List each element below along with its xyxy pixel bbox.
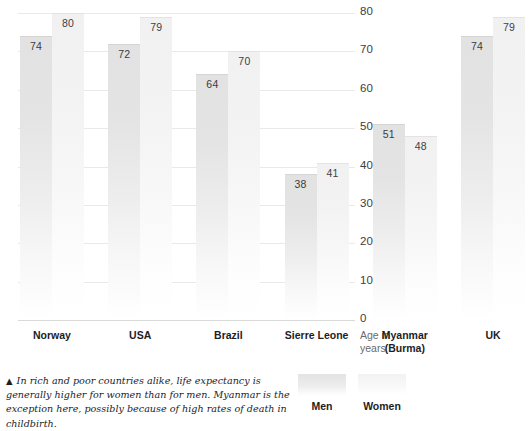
y-axis-tick-20: 20 xyxy=(360,235,408,247)
bar-cap xyxy=(317,163,349,164)
bar-fill xyxy=(405,136,437,320)
bar-cap xyxy=(52,13,84,14)
x-axis-label-line1: Norway xyxy=(7,329,97,342)
x-axis-label-line1: UK xyxy=(448,329,529,342)
x-axis-label: UK xyxy=(448,329,529,342)
legend-label-men: Men xyxy=(298,400,346,412)
bar-group: 3841 xyxy=(285,13,349,320)
bar-group: 7279 xyxy=(108,13,172,320)
legend-item-men: Men xyxy=(298,374,346,412)
bar-fill xyxy=(196,74,228,320)
y-axis-tick-80: 80 xyxy=(360,5,408,17)
bar-fill xyxy=(108,44,140,320)
x-axis-label: Norway xyxy=(7,329,97,342)
x-axis-label: Sierre Leone xyxy=(272,329,362,342)
x-axis-label: Brazil xyxy=(183,329,273,342)
x-axis-label-line1: USA xyxy=(95,329,185,342)
bar-fill xyxy=(317,163,349,320)
bar-value-label: 48 xyxy=(405,140,437,152)
bar-cap xyxy=(108,44,140,45)
bar-value-label: 79 xyxy=(493,21,525,33)
caption-text: In rich and poor countries alike, life e… xyxy=(6,375,290,429)
bar-men[interactable]: 72 xyxy=(108,44,140,320)
y-axis-tick-0: 0 xyxy=(360,312,408,324)
bar-women[interactable]: 48 xyxy=(405,136,437,320)
bar-fill xyxy=(373,124,405,320)
plot-area: 748072796470384151487479 xyxy=(18,13,355,320)
bar-fill xyxy=(20,36,52,320)
x-axis-label-line2: (Burma) xyxy=(360,342,450,355)
bar-cap xyxy=(285,174,317,175)
bar-value-label: 74 xyxy=(20,40,52,52)
bar-cap xyxy=(140,17,172,18)
bar-women[interactable]: 79 xyxy=(140,17,172,320)
x-axis-label-line1: Sierre Leone xyxy=(272,329,362,342)
bar-women[interactable]: 80 xyxy=(52,13,84,320)
bar-group: 6470 xyxy=(196,13,260,320)
legend-label-women: Women xyxy=(358,400,406,412)
bar-women[interactable]: 79 xyxy=(493,17,525,320)
bar-value-label: 38 xyxy=(285,178,317,190)
y-axis-tick-70: 70 xyxy=(360,43,408,55)
bar-value-label: 64 xyxy=(196,78,228,90)
bar-women[interactable]: 70 xyxy=(228,51,260,320)
bar-fill xyxy=(461,36,493,320)
x-axis-label: Myanmar(Burma) xyxy=(360,329,450,354)
bar-cap xyxy=(228,51,260,52)
y-axis-tick-10: 10 xyxy=(360,274,408,286)
bar-cap xyxy=(493,17,525,18)
chart-caption: ▲ In rich and poor countries alike, life… xyxy=(6,374,292,431)
bar-value-label: 80 xyxy=(52,17,84,29)
y-axis-tick-30: 30 xyxy=(360,197,408,209)
bar-men[interactable]: 64 xyxy=(196,74,228,320)
bar-fill xyxy=(493,17,525,320)
legend-item-women: Women xyxy=(358,374,406,412)
bar-cap xyxy=(405,136,437,137)
bar-cap xyxy=(196,74,228,75)
x-axis-label-line1: Brazil xyxy=(183,329,273,342)
bar-group: 7479 xyxy=(461,13,525,320)
bar-fill xyxy=(228,51,260,320)
bar-value-label: 79 xyxy=(140,21,172,33)
bar-men[interactable]: 51 xyxy=(373,124,405,320)
bar-cap xyxy=(20,36,52,37)
bar-fill xyxy=(140,17,172,320)
x-axis-line xyxy=(18,320,355,321)
bar-fill xyxy=(52,13,84,320)
bar-men[interactable]: 38 xyxy=(285,174,317,320)
bar-value-label: 74 xyxy=(461,40,493,52)
chart-legend: Men Women xyxy=(298,374,410,418)
y-axis-tick-50: 50 xyxy=(360,120,408,132)
x-axis-label: USA xyxy=(95,329,185,342)
legend-swatch-women xyxy=(358,374,406,396)
bar-men[interactable]: 74 xyxy=(20,36,52,320)
bar-value-label: 72 xyxy=(108,48,140,60)
legend-swatch-men xyxy=(298,374,346,396)
bar-women[interactable]: 41 xyxy=(317,163,349,320)
bar-group: 7480 xyxy=(20,13,84,320)
y-axis-tick-40: 40 xyxy=(360,159,408,171)
bar-value-label: 70 xyxy=(228,55,260,67)
x-axis-label-line1: Myanmar xyxy=(360,329,450,342)
bar-cap xyxy=(461,36,493,37)
triangle-marker-icon: ▲ xyxy=(6,376,13,386)
bar-fill xyxy=(285,174,317,320)
bar-men[interactable]: 74 xyxy=(461,36,493,320)
bar-value-label: 41 xyxy=(317,167,349,179)
y-axis-tick-60: 60 xyxy=(360,82,408,94)
